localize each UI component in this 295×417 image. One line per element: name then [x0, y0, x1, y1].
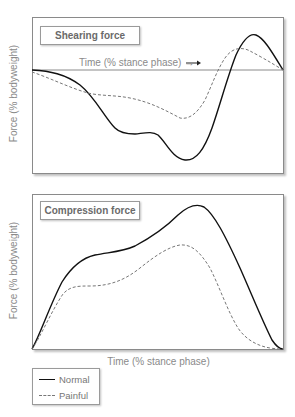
- legend-item-normal: Normal: [39, 374, 90, 385]
- compression-painful-line: [32, 245, 283, 349]
- legend-label-normal: Normal: [59, 374, 90, 385]
- solid-line-icon: [39, 379, 55, 380]
- legend-item-painful: Painful: [39, 390, 88, 401]
- legend-label-painful: Painful: [59, 390, 88, 401]
- legend: Normal Painful: [32, 368, 100, 405]
- dashed-line-icon: [39, 395, 55, 396]
- compression-force-title: Compression force: [40, 201, 140, 220]
- compression-normal-line: [32, 205, 283, 349]
- compression-x-axis-label: Time (% stance phase): [0, 356, 295, 367]
